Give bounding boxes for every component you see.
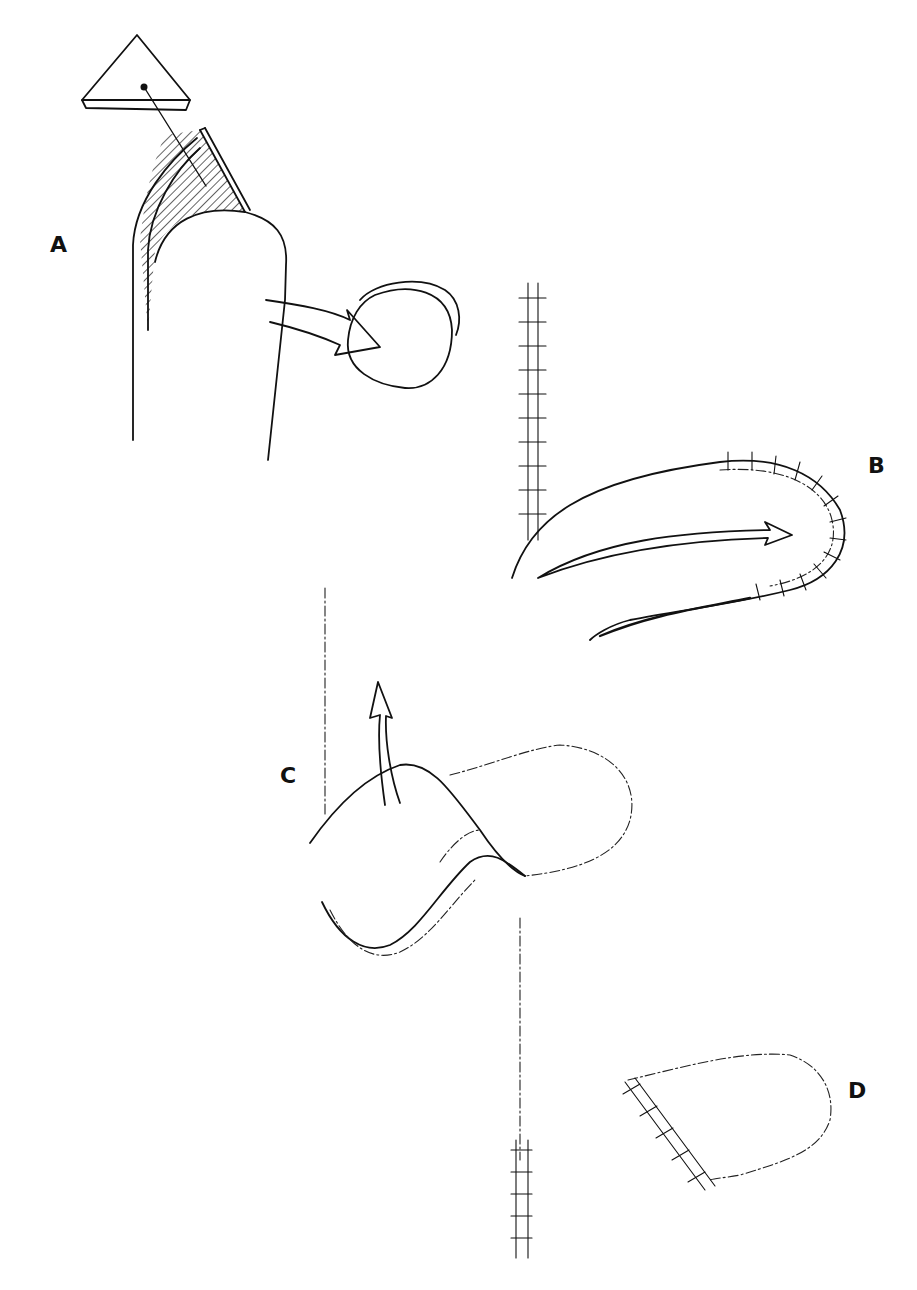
panel-b <box>512 283 846 640</box>
suture-ticks <box>519 298 546 514</box>
panel-d <box>511 1054 831 1258</box>
lower-suture-line <box>511 1140 532 1258</box>
rotated-flap <box>512 461 844 640</box>
panel-a <box>82 35 459 460</box>
diagram-canvas <box>0 0 917 1290</box>
panel-label-d: D <box>848 1078 866 1103</box>
panel-label-c: C <box>280 763 296 788</box>
panel-label-a: A <box>50 232 67 257</box>
panel-c <box>310 588 632 1160</box>
elevated-flap <box>310 745 632 955</box>
closed-flap <box>623 1054 831 1190</box>
digit-outline <box>133 128 286 460</box>
rotation-arrow <box>538 522 792 578</box>
elevation-arrow <box>370 682 400 805</box>
flap-suture-ticks <box>728 452 846 600</box>
transfer-arrow <box>266 300 380 355</box>
panel-label-b: B <box>868 453 885 478</box>
hatched-defect <box>348 282 459 388</box>
